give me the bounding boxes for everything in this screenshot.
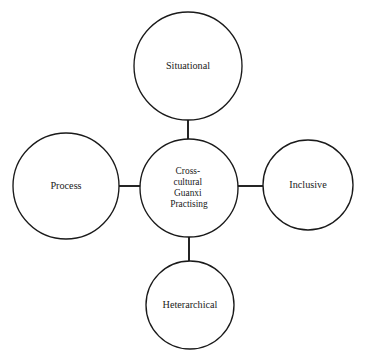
node-heterarchical[interactable]: Heterarchical xyxy=(146,261,234,349)
concept-diagram-canvas: Situational Process Inclusive Heterarchi… xyxy=(0,0,376,361)
node-situational[interactable]: Situational xyxy=(134,12,242,120)
node-center[interactable]: Cross- cultural Guanxi Practising xyxy=(140,139,238,237)
node-heterarchical-label: Heterarchical xyxy=(163,299,218,310)
node-center-label-line-4: Practising xyxy=(170,199,208,209)
node-inclusive-label: Inclusive xyxy=(289,179,327,190)
diagram-root: Situational Process Inclusive Heterarchi… xyxy=(0,0,376,361)
node-situational-label: Situational xyxy=(166,60,210,71)
node-process[interactable]: Process xyxy=(13,133,119,239)
node-center-label-line-3: Guanxi xyxy=(174,188,202,198)
node-center-label-line-2: cultural xyxy=(174,177,203,187)
node-process-label: Process xyxy=(50,180,81,191)
node-center-label: Cross- cultural Guanxi Practising xyxy=(170,166,208,209)
node-inclusive[interactable]: Inclusive xyxy=(263,140,353,230)
node-center-label-line-1: Cross- xyxy=(176,166,200,176)
